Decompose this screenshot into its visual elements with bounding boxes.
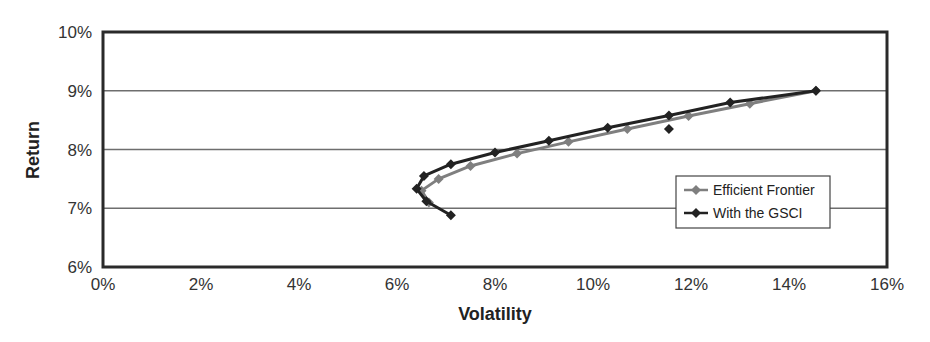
x-tick-label: 2% (189, 275, 214, 294)
data-point-marker (446, 159, 456, 169)
y-tick-label: 8% (67, 141, 92, 160)
y-tick-label: 9% (67, 82, 92, 101)
x-tick-label: 6% (385, 275, 410, 294)
legend-label: Efficient Frontier (713, 182, 815, 198)
legend-label: With the GSCI (713, 205, 802, 221)
y-tick-label: 7% (67, 199, 92, 218)
data-point-marker (466, 161, 476, 171)
x-tick-label: 10% (576, 275, 610, 294)
x-tick-label: 12% (674, 275, 708, 294)
y-tick-label: 6% (67, 258, 92, 277)
x-tick-label: 14% (772, 275, 806, 294)
frontier-chart: 6%7%8%9%10% 0%2%4%6%8%10%12%14%16% Volat… (0, 0, 930, 342)
data-point-marker (811, 86, 821, 96)
y-tick-label: 10% (58, 23, 92, 42)
data-point-marker (664, 124, 674, 134)
series-with-the-gsci-isolated-point (664, 124, 674, 134)
y-axis-ticks: 6%7%8%9%10% (58, 23, 92, 277)
x-tick-label: 0% (91, 275, 116, 294)
x-tick-label: 16% (870, 275, 904, 294)
y-axis-title: Return (23, 121, 43, 179)
x-tick-label: 8% (483, 275, 508, 294)
x-axis-ticks: 0%2%4%6%8%10%12%14%16% (91, 275, 904, 294)
x-tick-label: 4% (287, 275, 312, 294)
x-axis-title: Volatility (458, 304, 532, 324)
legend: Efficient Frontier With the GSCI (676, 176, 830, 228)
